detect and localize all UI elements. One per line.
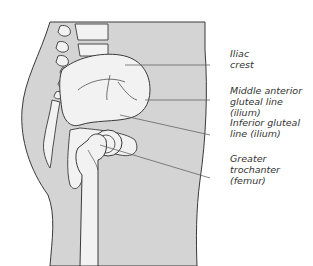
hip-anatomy-diagram: Iliac crest Middle anterior gluteal line… — [0, 0, 313, 266]
label-middle-anterior-gluteal-line: Middle anterior gluteal line (ilium) — [230, 85, 313, 118]
label-inferior-gluteal-line: Inferior gluteal line (ilium) — [230, 117, 300, 139]
label-greater-trochanter: Greater trochanter (femur) — [230, 153, 280, 186]
label-iliac-crest: Iliac crest — [230, 48, 254, 70]
